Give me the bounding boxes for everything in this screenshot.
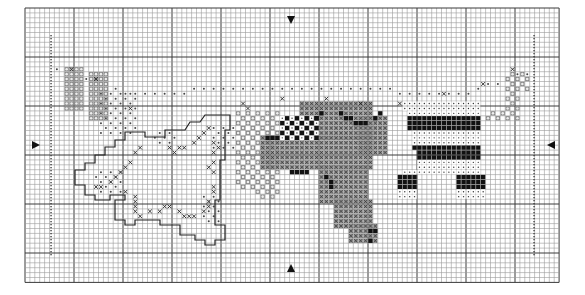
chart-grid: [25, 8, 559, 282]
cross-stitch-chart: [0, 0, 585, 295]
center-arrow-icon: [32, 141, 40, 149]
center-arrow-icon: [547, 141, 555, 149]
